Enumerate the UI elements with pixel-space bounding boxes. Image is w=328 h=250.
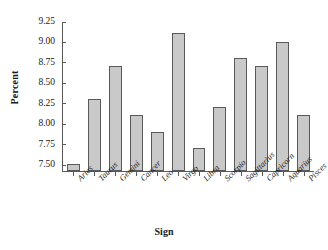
bar-slot (126, 22, 147, 171)
bar (67, 164, 80, 171)
bar (213, 107, 226, 171)
bar (234, 58, 247, 171)
y-axis-tick-label: 8.25 (38, 97, 55, 110)
bar-slot (147, 22, 168, 171)
x-axis-title-text: Sign (155, 226, 174, 237)
bar-slot (105, 22, 126, 171)
bar-series (63, 22, 314, 171)
y-axis-title-text: Percent (10, 71, 21, 105)
bar (109, 66, 122, 171)
y-axis-tick-label: 8.75 (38, 56, 55, 69)
y-axis-tick-label: 7.50 (38, 158, 55, 171)
y-axis-tick-label: 9.00 (38, 35, 55, 48)
y-axis-tick-label: 8.50 (38, 76, 55, 89)
bar-slot (63, 22, 84, 171)
bar-slot (272, 22, 293, 171)
x-axis-category-labels: AriesTaurusGeminiCancerLeoVirgoLibraScor… (62, 176, 314, 218)
y-axis-tick-label: 9.25 (38, 15, 55, 28)
bar-slot (168, 22, 189, 171)
y-axis-title: Percent (6, 0, 24, 175)
bar-slot (189, 22, 210, 171)
bar-slot (293, 22, 314, 171)
y-axis-tick-label: 8.00 (38, 117, 55, 130)
bar-slot (84, 22, 105, 171)
bar-slot (209, 22, 230, 171)
bar (88, 99, 101, 171)
bar-chart: Percent 7.507.758.008.258.508.759.009.25… (0, 0, 328, 250)
y-axis-tick-label: 7.75 (38, 138, 55, 151)
bar (172, 33, 185, 171)
plot-area: 7.507.758.008.258.508.759.009.25 (62, 22, 314, 172)
bar-slot (230, 22, 251, 171)
x-axis-title: Sign (0, 226, 328, 237)
